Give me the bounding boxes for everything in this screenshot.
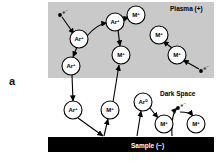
particle-p5: Ar+ <box>62 57 80 75</box>
figure-panel: a <box>0 0 217 161</box>
particle-p2: Ar+ <box>106 13 124 31</box>
particle-p1: Ar+ <box>70 30 88 48</box>
particle-p6: M+ <box>150 26 168 44</box>
electron-dot <box>176 106 180 110</box>
particle-p8: Ar+ <box>64 101 82 119</box>
particle-p11: M+ <box>155 115 173 133</box>
particle-p7: M+ <box>168 46 186 64</box>
electron-dot <box>58 13 62 17</box>
particle-p10: Ar0 <box>134 93 152 111</box>
electron-dot <box>199 69 203 73</box>
particle-p4: M+ <box>112 46 130 64</box>
region-label-plasma: Plasma (+) <box>170 5 203 13</box>
region-label-sample: Sample (−) <box>131 142 164 150</box>
plasma-sputtering-diagram: Ar+Ar+M+M+Ar+M+M+Ar+M+Ar0M+M+ e−e−e− Pla… <box>0 0 217 161</box>
particle-p12: M+ <box>187 115 205 133</box>
particle-p3: M+ <box>127 6 145 24</box>
region-label-dark-space: Dark Space <box>160 90 196 98</box>
particle-p9: M+ <box>101 101 119 119</box>
